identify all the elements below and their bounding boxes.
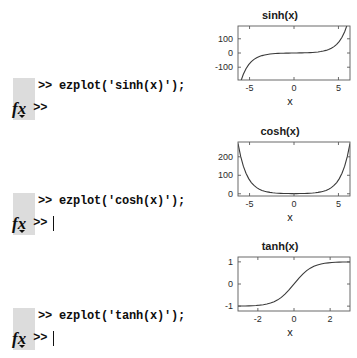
chevron-down-icon [19,230,25,233]
fx-icon[interactable]: fx [12,215,28,232]
prompt-line-sinh[interactable]: fx >> [12,97,54,119]
x-tick-label: 0 [291,83,296,93]
chevron-down-icon [19,115,25,118]
axis-frame [238,142,350,196]
figure-sinh: sinh(x) -505-1000100 x [205,8,355,108]
y-tick-label: 100 [218,170,233,180]
figure-title-sinh: sinh(x) [205,8,355,22]
y-tick-label: 0 [228,189,233,199]
x-tick-label: 2 [328,314,333,324]
command-text-tanh: >> ezplot('tanh(x)'); [38,309,185,323]
chevron-down-icon [19,345,25,348]
text-caret [53,331,54,346]
fx-icon[interactable]: fx [12,100,28,117]
console-entry-tanh[interactable]: >> ezplot('tanh(x)'); fx >> [0,308,215,350]
y-tick-label: -100 [215,62,233,72]
x-tick-label: 0 [291,314,296,324]
x-tick-label: -5 [246,199,254,209]
plot-svg-tanh: -202-101 [205,253,355,325]
curve-sinh(x) [238,22,350,92]
figure-cosh: cosh(x) -5050100200 x [205,124,355,224]
figure-xlabel-tanh: x [205,325,355,339]
x-tick-label: 5 [336,83,341,93]
fx-icon[interactable]: fx [12,330,28,347]
y-tick-label: 0 [228,48,233,58]
command-text-cosh: >> ezplot('cosh(x)'); [38,194,185,208]
plot-area-cosh: -5050100200 [205,138,355,210]
prompt-line-cosh[interactable]: fx >> [12,212,54,234]
figure-title-tanh: tanh(x) [205,239,355,253]
x-tick-label: -2 [254,314,262,324]
y-tick-label: 100 [218,34,233,44]
prompt-symbol: >> [33,101,47,115]
x-tick-label: 0 [291,199,296,209]
figure-tanh: tanh(x) -202-101 x [205,239,355,339]
x-tick-label: 5 [336,199,341,209]
figure-xlabel-sinh: x [205,94,355,108]
y-tick-label: 1 [228,257,233,267]
prompt-symbol: >> [33,331,47,345]
text-caret [53,216,54,231]
figure-title-cosh: cosh(x) [205,124,355,138]
curve-cosh(x) [238,143,350,193]
y-tick-label: 0 [228,279,233,289]
plot-svg-cosh: -5050100200 [205,138,355,210]
figure-xlabel-cosh: x [205,210,355,224]
prompt-line-tanh[interactable]: fx >> [12,327,54,349]
command-text-sinh: >> ezplot('sinh(x)'); [38,79,185,93]
y-tick-label: 200 [218,152,233,162]
y-tick-label: -1 [225,301,233,311]
plot-area-sinh: -505-1000100 [205,22,355,94]
plot-svg-sinh: -505-1000100 [205,22,355,94]
plot-area-tanh: -202-101 [205,253,355,325]
console-entry-cosh[interactable]: >> ezplot('cosh(x)'); fx >> [0,193,215,235]
console-entry-sinh[interactable]: >> ezplot('sinh(x)'); fx >> [0,78,215,120]
curve-tanh(x) [238,262,350,306]
x-tick-label: -5 [246,83,254,93]
prompt-symbol: >> [33,216,47,230]
